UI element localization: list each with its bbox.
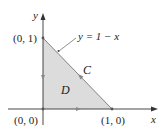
curve-equation-label: y = 1 − x	[78, 31, 119, 42]
label-point-origin: (0, 0)	[14, 115, 38, 126]
equation-leader-line	[59, 38, 76, 51]
diagram: y x (0, 1) (0, 0) (1, 0) y = 1 − x C D	[0, 0, 166, 132]
x-axis-arrow-icon	[151, 107, 158, 112]
point-1-0	[111, 108, 114, 111]
y-axis-arrow-icon	[41, 13, 46, 20]
region-label-d: D	[61, 84, 70, 96]
boundary-label-c: C	[83, 64, 91, 76]
x-axis-label: x	[151, 114, 156, 125]
label-point-0-1: (0, 1)	[13, 33, 37, 44]
y-axis-label: y	[33, 10, 38, 21]
equation-leader-dot	[58, 50, 60, 52]
point-origin	[42, 108, 45, 111]
point-0-1	[42, 37, 45, 40]
label-point-1-0: (1, 0)	[101, 115, 125, 126]
